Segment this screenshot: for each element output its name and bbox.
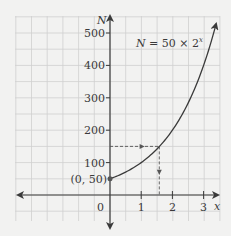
y-axis-label: N	[96, 14, 107, 27]
y-tick-label: 100	[84, 157, 105, 170]
y-tick-label: 400	[84, 59, 105, 72]
equation-label: N = 50 × 2x	[135, 36, 203, 50]
x-axis-label: x	[214, 200, 221, 213]
intercept-label: (0, 50)	[70, 173, 107, 186]
intercept-point	[108, 176, 113, 181]
exponential-chart: 123 100200300400500 N x N = 50 × 2x (0, …	[0, 0, 231, 236]
x-tick-label: 2	[169, 201, 176, 214]
y-tick-label: 300	[84, 92, 105, 105]
y-ticks: 100200300400500	[84, 27, 110, 170]
origin-label: 0	[97, 201, 104, 214]
x-tick-label: 1	[138, 201, 145, 214]
x-tick-label: 3	[200, 201, 207, 214]
y-tick-label: 200	[84, 124, 105, 137]
y-tick-label: 500	[84, 27, 105, 40]
